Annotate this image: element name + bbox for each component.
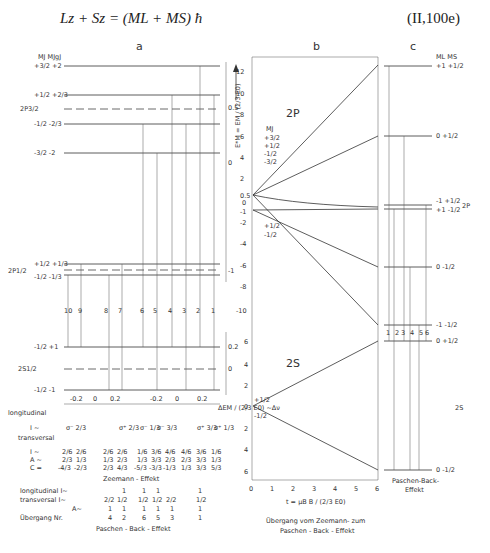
level-label: 0 -1/2 [436, 263, 455, 271]
svg-text:8: 8 [240, 111, 244, 119]
row-label: transversal [18, 434, 55, 442]
mj-label: +1/2 [254, 396, 270, 404]
transition-numbers-a: 10 9 8 7 6 5 4 3 2 1 [64, 307, 215, 315]
level-label: +3/2 +2 [34, 62, 62, 70]
b-caption-1: Übergang vom Zeemann- zum [266, 517, 365, 525]
cell: σ⁻ 3/3 [157, 424, 177, 432]
svg-text:6: 6 [142, 514, 146, 522]
panel-a-title: a [136, 40, 143, 53]
axis-tick: 0 [228, 159, 232, 167]
svg-text:1/3: 1/3 [103, 456, 113, 464]
transition-number: 5 [419, 329, 423, 337]
svg-text:3/6: 3/6 [151, 448, 161, 456]
b-p-curves [253, 65, 378, 325]
svg-text:1: 1 [108, 505, 112, 513]
c-term-s: 2S [455, 404, 463, 412]
svg-text:5: 5 [156, 514, 160, 522]
axis-tick: -1 [228, 267, 234, 275]
svg-text:2/2: 2/2 [104, 496, 114, 504]
b-mj-header: MJ [266, 125, 274, 133]
transition-number: 5 [153, 307, 157, 315]
svg-text:1: 1 [122, 487, 126, 495]
svg-text:3: 3 [312, 485, 316, 493]
b-y-ticks-s: 6 4 2 0 2 4 6 [244, 338, 248, 476]
svg-text:1: 1 [156, 505, 160, 513]
b-x-label: t = μB B / (2/3 E0) [286, 498, 345, 506]
transitions-a [68, 66, 214, 390]
row-label: A ~ [30, 456, 42, 464]
svg-text:6: 6 [244, 338, 248, 346]
zeeman-table: longitudinal I ~ σ⁻ 2/3 σ⁺ 2/3 σ⁻ 1/3 σ⁻… [8, 409, 234, 483]
panel-c-title: c [410, 40, 416, 53]
svg-text:1: 1 [270, 485, 274, 493]
svg-text:1: 1 [198, 487, 202, 495]
mj-label: +3/2 [264, 134, 280, 142]
b-x-ticks: 0 1 2 3 4 5 6 [249, 485, 379, 493]
svg-text:-2/3: -2/3 [74, 464, 87, 472]
svg-text:6: 6 [240, 133, 244, 141]
svg-text:1/2: 1/2 [138, 496, 148, 504]
transition-number: 2 [196, 307, 200, 315]
svg-text:1/6: 1/6 [211, 448, 221, 456]
svg-text:4/6: 4/6 [181, 448, 191, 456]
svg-text:2: 2 [244, 425, 248, 433]
level-label: -1/2 -1/3 [34, 273, 62, 281]
svg-text:4/3: 4/3 [117, 464, 127, 472]
svg-text:-8: -8 [240, 283, 246, 291]
svg-text:6: 6 [375, 485, 379, 493]
svg-text:1: 1 [156, 487, 160, 495]
term-p12: 2P1/2 [8, 267, 27, 275]
panel-c-header: ML MS [436, 53, 457, 61]
transition-number: 8 [104, 307, 108, 315]
svg-text:4/6: 4/6 [165, 448, 175, 456]
svg-text:1/3: 1/3 [181, 464, 191, 472]
svg-text:10: 10 [236, 90, 244, 98]
mj-label: -1/2 [264, 150, 277, 158]
paschen-back-caption: Paschen - Back - Effekt [96, 525, 171, 533]
transition-number: 7 [118, 307, 122, 315]
row-label: longitudinal [8, 409, 47, 417]
mj-label: -3/2 [264, 158, 277, 166]
mj-label: -1/2 [264, 231, 277, 239]
svg-text:4: 4 [240, 154, 244, 162]
level-label: +1/2 +1/3 [34, 260, 68, 268]
svg-text:-3/3: -3/3 [149, 464, 162, 472]
svg-text:2/3: 2/3 [117, 456, 127, 464]
scale-tick: 0 [175, 395, 179, 403]
svg-text:1/2: 1/2 [152, 496, 162, 504]
svg-text:4: 4 [244, 446, 248, 454]
svg-text:1: 1 [142, 487, 146, 495]
svg-text:3/6: 3/6 [196, 448, 206, 456]
level-label: 0 -1/2 [436, 466, 455, 474]
row-label: A~ [72, 505, 82, 513]
svg-text:1/2: 1/2 [117, 496, 127, 504]
svg-text:0: 0 [249, 485, 253, 493]
level-label: -1 +1/2 [436, 197, 460, 205]
svg-text:1: 1 [142, 505, 146, 513]
term-s12: 2S1/2 [18, 365, 37, 373]
scale-tick: 0.2 [197, 395, 207, 403]
svg-text:-6: -6 [240, 262, 246, 270]
level-label: +1 +1/2 [436, 62, 464, 70]
transition-number: 4 [168, 307, 172, 315]
cell: σ⁻ 2/3 [66, 424, 86, 432]
svg-text:12: 12 [236, 68, 244, 76]
svg-text:3: 3 [170, 514, 174, 522]
level-label: -1/2 -1 [34, 386, 55, 394]
c-term-p: 2P [462, 202, 470, 210]
svg-text:2/2: 2/2 [166, 496, 176, 504]
b-caption-2: Paschen - Back - Effekt [280, 527, 355, 535]
b-term-s: 2S [286, 357, 300, 370]
scale-tick: -0.2 [70, 395, 83, 403]
svg-text:1/2: 1/2 [196, 496, 206, 504]
cell: σ⁺ 1/3 [214, 424, 234, 432]
level-label: -1 -1/2 [436, 321, 457, 329]
p12-levels: +1/2 +1/3 2P1/2 -1/2 -1/3 [8, 260, 220, 281]
level-label: -1/2 +1 [34, 343, 58, 351]
svg-text:-1: -1 [240, 208, 246, 216]
level-label: -3/2 -2 [34, 149, 55, 157]
transition-number: 1 [386, 329, 390, 337]
row-label: longitudinal I~ [20, 487, 68, 495]
svg-text:2/3: 2/3 [165, 456, 175, 464]
svg-text:-2: -2 [240, 219, 246, 227]
